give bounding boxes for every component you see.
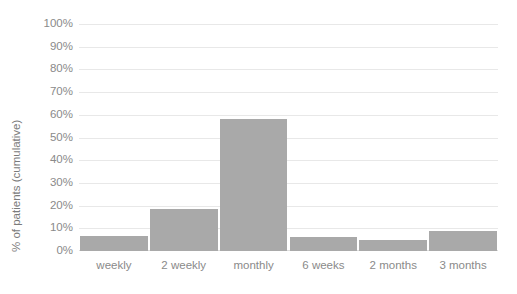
y-axis-tick-label: 10% [28,223,73,235]
y-axis-tick-label: 90% [28,41,73,53]
y-axis-tick-label: 40% [28,154,73,166]
y-axis-tick-label: 70% [28,86,73,98]
x-axis-tick-labels: weekly2 weeklymonthly6 weeks2 months3 mo… [79,258,498,282]
x-axis-tick-label: monthly [219,258,289,272]
y-axis-tick-label: 80% [28,64,73,76]
x-axis-tick-label: 3 months [428,258,498,272]
bar [359,240,427,251]
y-axis-tick-label: 60% [28,109,73,121]
plot-area [79,24,498,251]
y-axis-title: % of patients (cumulative) [10,120,22,252]
bar [220,119,288,251]
bar-series [79,24,498,251]
y-axis-tick-labels: 0%10%20%30%40%50%60%70%80%90%100% [28,0,73,294]
y-axis-tick-label: 50% [28,132,73,144]
y-axis-tick-label: 0% [28,245,73,257]
chart-container: % of patients (cumulative) 0%10%20%30%40… [0,0,517,294]
y-axis-tick-label: 20% [28,200,73,212]
bar [290,237,358,251]
bar [80,236,148,251]
bar [429,231,497,251]
y-axis-tick-label: 30% [28,177,73,189]
x-axis-tick-label: 2 weekly [149,258,219,272]
x-axis-tick-label: 6 weeks [289,258,359,272]
x-axis-tick-label: 2 months [358,258,428,272]
x-axis-tick-label: weekly [79,258,149,272]
y-axis-tick-label: 100% [28,18,73,30]
bar [150,209,218,251]
